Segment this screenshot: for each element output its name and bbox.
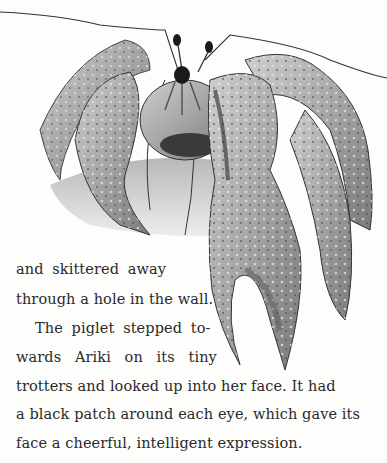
text-line-6: a black patch around each eye, which gav… bbox=[16, 404, 360, 424]
text-line-4: wards Ariki on its tiny bbox=[16, 347, 217, 367]
text-line-1: and skittered away bbox=[16, 259, 166, 279]
text-line-5: trotters and looked up into her face. It… bbox=[16, 376, 336, 396]
text-line-2: through a hole in the wall. bbox=[16, 289, 213, 309]
text-line-7: face a cheerful, intelligent expression. bbox=[16, 433, 302, 453]
crab-illustration bbox=[0, 0, 387, 400]
text-line-3-paragraph-start: The piglet stepped to- bbox=[35, 318, 211, 338]
